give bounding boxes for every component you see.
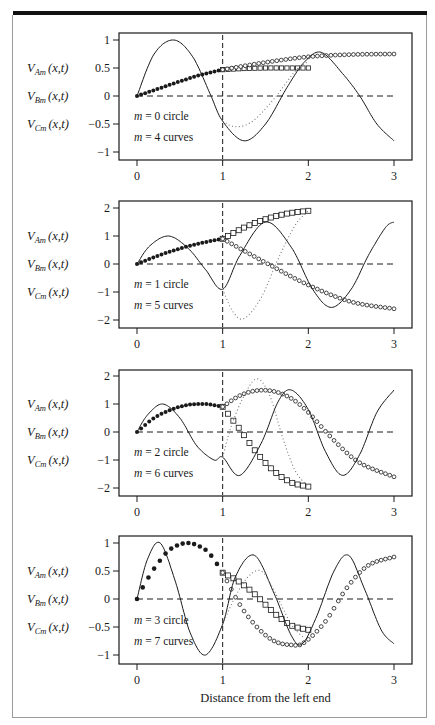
y-tick-label: 0 — [104, 89, 110, 103]
open-square-marker — [301, 66, 305, 70]
open-circle-marker — [347, 299, 351, 303]
open-circle-marker — [259, 388, 263, 392]
filled-circle-marker — [203, 547, 208, 552]
open-square-marker — [300, 483, 305, 488]
open-square-marker — [284, 211, 289, 216]
filled-circle-marker — [192, 243, 196, 247]
open-square-marker — [285, 66, 289, 70]
y-axis-label: VCm(x,t) — [27, 620, 69, 636]
y-tick-label: −2 — [97, 313, 110, 327]
open-circle-marker — [302, 55, 306, 59]
open-circle-marker — [275, 59, 279, 63]
open-circle-marker — [243, 64, 247, 68]
filled-circle-marker — [186, 541, 191, 546]
open-circle-marker — [384, 557, 388, 561]
y-tick-label: −0.5 — [88, 117, 110, 131]
filled-circle-marker — [139, 260, 143, 264]
open-circle-marker — [315, 54, 319, 58]
x-tick-label: 0 — [134, 673, 140, 687]
open-circle-marker — [341, 592, 345, 596]
open-circle-marker — [379, 52, 383, 56]
open-circle-marker — [336, 443, 340, 447]
open-circle-marker — [333, 295, 337, 299]
open-circle-marker — [234, 396, 238, 400]
y-axis-label: VAm(x,t) — [27, 564, 68, 580]
filled-circle-marker — [204, 71, 208, 75]
y-axis-label: VAm(x,t) — [27, 229, 68, 245]
open-square-marker — [226, 411, 231, 416]
x-tick-label: 2 — [305, 505, 311, 519]
filled-circle-marker — [204, 402, 208, 406]
x-tick-label: 0 — [134, 505, 140, 519]
open-circle-marker — [345, 586, 349, 590]
open-circle-marker — [272, 390, 276, 394]
open-circle-marker — [371, 561, 375, 565]
open-circle-marker — [338, 53, 342, 57]
open-circle-marker — [234, 244, 238, 248]
filled-circle-marker — [172, 81, 176, 85]
open-circle-marker — [347, 53, 351, 57]
open-circle-marker — [302, 406, 306, 410]
filled-circle-marker — [168, 250, 172, 254]
open-square-marker — [274, 214, 279, 219]
open-square-marker — [300, 209, 305, 214]
open-square-marker — [231, 231, 236, 236]
filled-circle-marker — [164, 251, 168, 255]
open-circle-marker — [362, 463, 366, 467]
open-circle-marker — [366, 465, 370, 469]
open-circle-marker — [324, 291, 328, 295]
open-square-marker — [263, 460, 268, 465]
y-tick-label: −1 — [97, 453, 110, 467]
open-square-marker — [295, 482, 300, 487]
open-circle-marker — [375, 560, 379, 564]
filled-circle-marker — [213, 403, 217, 407]
open-square-marker — [236, 228, 241, 233]
open-circle-marker — [345, 451, 349, 455]
open-square-marker — [263, 602, 268, 607]
open-square-marker — [306, 66, 310, 70]
filled-circle-marker — [196, 402, 200, 406]
open-circle-marker — [332, 439, 336, 443]
annotation-label: m = 3 circle — [134, 614, 189, 626]
open-circle-marker — [375, 469, 379, 473]
open-circle-marker — [352, 53, 356, 57]
open-circle-marker — [388, 306, 392, 310]
filled-circle-marker — [151, 88, 155, 92]
y-axis-label: VCm(x,t) — [27, 453, 69, 469]
open-square-marker — [247, 223, 252, 228]
filled-circle-marker — [198, 544, 203, 549]
open-square-marker — [279, 212, 284, 217]
open-circle-marker — [230, 242, 234, 246]
open-circle-marker — [302, 281, 306, 285]
open-circle-marker — [366, 564, 370, 568]
open-circle-marker — [252, 62, 256, 66]
open-circle-marker — [270, 264, 274, 268]
annotation-label: m = 7 curves — [134, 635, 194, 647]
open-circle-marker — [221, 237, 225, 241]
x-axis-title: Distance from the left end — [200, 691, 331, 705]
open-circle-marker — [333, 53, 337, 57]
filled-circle-marker — [208, 239, 212, 243]
filled-circle-marker — [192, 402, 196, 406]
filled-circle-marker — [180, 541, 185, 546]
open-circle-marker — [329, 53, 333, 57]
open-circle-marker — [311, 634, 315, 638]
open-circle-marker — [293, 56, 297, 60]
x-tick-label: 1 — [220, 505, 226, 519]
y-tick-label: 0.5 — [95, 564, 110, 578]
open-square-marker — [242, 433, 247, 438]
open-circle-marker — [374, 52, 378, 56]
open-square-marker — [274, 66, 278, 70]
filled-circle-marker — [143, 259, 147, 263]
open-square-marker — [295, 625, 300, 630]
open-circle-marker — [221, 405, 225, 409]
open-circle-marker — [261, 259, 265, 263]
filled-circle-marker — [196, 74, 200, 78]
filled-circle-marker — [184, 403, 188, 407]
filled-circle-marker — [155, 414, 159, 418]
y-tick-label: −1 — [97, 145, 110, 159]
x-tick-label: 1 — [220, 673, 226, 687]
open-circle-marker — [371, 467, 375, 471]
open-circle-marker — [356, 52, 360, 56]
solid-curve — [137, 222, 394, 308]
